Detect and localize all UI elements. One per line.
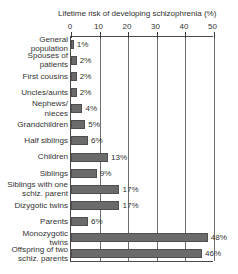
x-axis-tick-labels: 01020304050	[0, 22, 238, 34]
category-label: Grandchildren	[0, 120, 68, 129]
bar-group: 9%	[71, 165, 111, 181]
bar	[71, 104, 82, 113]
bar-group: 6%	[71, 133, 103, 149]
bar-group: 13%	[71, 149, 127, 165]
category-label-line: Uncles/aunts	[0, 88, 68, 97]
bar	[71, 56, 77, 65]
bar	[71, 217, 88, 226]
category-label-line: schiz. parents	[0, 254, 68, 263]
category-label-line: Spouses of	[0, 51, 68, 60]
bar	[71, 40, 74, 49]
bar-group: 4%	[71, 101, 97, 117]
bar-group: 1%	[71, 36, 89, 52]
category-label-line: Monozygotic	[0, 229, 68, 238]
bar-value-label: 2%	[80, 88, 92, 97]
bar-group: 5%	[71, 117, 100, 133]
bar-row: Parents6%	[0, 214, 238, 230]
x-tick-label-30: 30	[151, 22, 160, 31]
bar-row: Monozygotictwins48%	[0, 230, 238, 246]
bar	[71, 153, 108, 162]
bar-group: 17%	[71, 197, 139, 213]
bar-row: First cousins2%	[0, 68, 238, 84]
bar-group: 6%	[71, 214, 103, 230]
category-label: Uncles/aunts	[0, 88, 68, 97]
category-label: Parents	[0, 217, 68, 226]
category-label: Half siblings	[0, 136, 68, 145]
x-tick-label-0: 0	[68, 22, 72, 31]
bar-value-label: 5%	[88, 120, 100, 129]
bar-value-label: 17%	[122, 201, 138, 210]
bar-group: 2%	[71, 68, 91, 84]
category-label: Siblings with oneschiz. parent	[0, 180, 68, 198]
category-label: Siblings	[0, 169, 68, 178]
x-tick-label-20: 20	[123, 22, 132, 31]
bar-row: Nephews/nieces4%	[0, 101, 238, 117]
bar-value-label: 9%	[100, 169, 112, 178]
bar-row: Children13%	[0, 149, 238, 165]
category-label: Offspring of twoschiz. parents	[0, 245, 68, 263]
category-label-line: First cousins	[0, 72, 68, 81]
bar-row: Generalpopulation1%	[0, 36, 238, 52]
bar-value-label: 48%	[211, 233, 227, 242]
category-label-line: Nephews/	[0, 99, 68, 108]
category-label: Spouses ofpatients	[0, 51, 68, 69]
bar-row: Offspring of twoschiz. parents46%	[0, 246, 238, 262]
bar	[71, 201, 119, 210]
bar-value-label: 6%	[91, 217, 103, 226]
category-label-line: Children	[0, 152, 68, 161]
bar-value-label: 1%	[77, 40, 89, 49]
bar-group: 48%	[71, 230, 227, 246]
category-label-line: Grandchildren	[0, 120, 68, 129]
bar	[71, 169, 97, 178]
category-label: Dizygotic twins	[0, 201, 68, 210]
category-label-line: Offspring of two	[0, 245, 68, 254]
category-label: Children	[0, 152, 68, 161]
bar	[71, 88, 77, 97]
chart-container: Lifetime risk of developing schizophreni…	[0, 0, 238, 274]
bar-row: Half siblings6%	[0, 133, 238, 149]
bar	[71, 120, 85, 129]
bar-value-label: 46%	[205, 249, 221, 258]
bar-group: 17%	[71, 181, 139, 197]
category-label-line: General	[0, 35, 68, 44]
bar-value-label: 17%	[122, 185, 138, 194]
bar	[71, 233, 208, 242]
bar-group: 2%	[71, 84, 91, 100]
bar-group: 46%	[71, 246, 221, 262]
bar	[71, 185, 119, 194]
bar-value-label: 13%	[111, 153, 127, 162]
bar-row: Spouses ofpatients2%	[0, 52, 238, 68]
category-label-line: Dizygotic twins	[0, 201, 68, 210]
bar-row: Siblings with oneschiz. parent17%	[0, 181, 238, 197]
category-label: Nephews/nieces	[0, 99, 68, 117]
bar-value-label: 6%	[91, 136, 103, 145]
category-label-line: Siblings	[0, 169, 68, 178]
x-tick-label-40: 40	[180, 22, 189, 31]
category-label-line: Siblings with one	[0, 180, 68, 189]
chart-title: Lifetime risk of developing schizophreni…	[58, 9, 236, 18]
bar-row: Grandchildren5%	[0, 117, 238, 133]
bar	[71, 72, 77, 81]
bar-row: Dizygotic twins17%	[0, 197, 238, 213]
bar-value-label: 2%	[80, 56, 92, 65]
category-label-line: Half siblings	[0, 136, 68, 145]
bar-value-label: 2%	[80, 72, 92, 81]
bar-rows: Generalpopulation1%Spouses ofpatients2%F…	[0, 36, 238, 262]
bar-row: Uncles/aunts2%	[0, 84, 238, 100]
bar-row: Siblings9%	[0, 165, 238, 181]
bar	[71, 136, 88, 145]
x-tick-label-50: 50	[208, 22, 217, 31]
bar	[71, 249, 202, 258]
bar-value-label: 4%	[85, 104, 97, 113]
category-label-line: Parents	[0, 217, 68, 226]
category-label: First cousins	[0, 72, 68, 81]
x-tick-label-10: 10	[94, 22, 103, 31]
bar-group: 2%	[71, 52, 91, 68]
